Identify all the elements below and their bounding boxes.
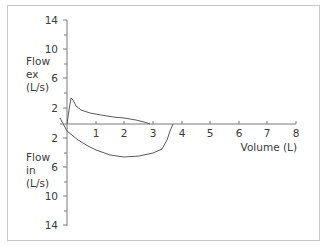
x-tick-label: 8 bbox=[293, 127, 300, 139]
x-tick-label: 2 bbox=[121, 127, 128, 139]
y-axis-title-in-line2: in bbox=[26, 164, 36, 176]
y-axis-title-ex-line1: Flow bbox=[26, 55, 50, 67]
y-axis-title-ex-line3: (L/s) bbox=[26, 81, 49, 93]
x-tick-label: 3 bbox=[150, 127, 157, 139]
y-tick-label: 2 bbox=[51, 132, 58, 144]
flow-volume-chart: 14 10 6 2 2 6 10 14 1 2 3 4 5 6 7 8 Flow… bbox=[0, 0, 325, 247]
y-tick-label: 10 bbox=[45, 190, 58, 202]
expiratory-curve bbox=[67, 98, 150, 124]
x-tick-label: 7 bbox=[264, 127, 271, 139]
x-tick-label: 1 bbox=[93, 127, 100, 139]
y-axis-title-in-line1: Flow bbox=[26, 151, 50, 163]
y-tick-label: 6 bbox=[51, 161, 58, 173]
y-axis-title-ex-line2: ex bbox=[26, 68, 39, 80]
y-axis-title-in-line3: (L/s) bbox=[26, 177, 49, 189]
x-axis-title: Volume (L) bbox=[241, 141, 297, 153]
x-tick-label: 4 bbox=[179, 127, 186, 139]
x-tick-label: 6 bbox=[236, 127, 243, 139]
y-tick-label: 14 bbox=[45, 219, 59, 231]
y-tick-label: 14 bbox=[45, 14, 59, 26]
y-tick-label: 2 bbox=[51, 102, 58, 114]
y-ticks bbox=[63, 20, 67, 225]
y-tick-label: 6 bbox=[51, 72, 58, 84]
x-tick-label: 5 bbox=[207, 127, 214, 139]
y-tick-label: 10 bbox=[45, 43, 58, 55]
